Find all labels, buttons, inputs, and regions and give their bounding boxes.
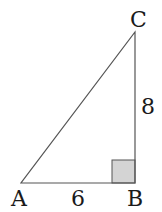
side-label-ab: 6 — [71, 186, 85, 211]
side-label-bc: 8 — [141, 94, 155, 119]
vertex-label-a: A — [10, 186, 28, 211]
triangle-diagram: A B C 6 8 — [0, 0, 162, 212]
vertex-label-c: C — [130, 7, 147, 32]
right-angle-marker — [112, 160, 135, 183]
vertex-label-b: B — [127, 186, 143, 211]
